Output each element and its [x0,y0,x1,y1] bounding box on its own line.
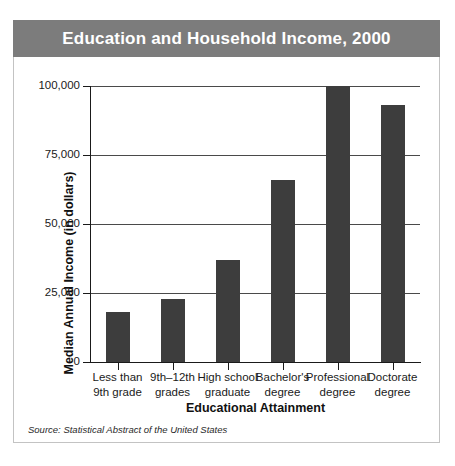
x-tick-label-line: Doctorate [359,370,426,385]
y-tick-mark [83,293,91,294]
y-axis-title: Median Annual Income (in dollars) [62,148,76,398]
bar [326,86,350,362]
source-note: Source: Statistical Abstract of the Unit… [28,424,227,435]
bar [271,180,295,362]
chart-figure: Education and Household Income, 2000 025… [0,0,455,466]
x-tick-label: Doctoratedegree [359,370,426,400]
x-tick-mark [173,363,174,370]
x-tick-mark [393,363,394,370]
bar [161,299,185,362]
y-tick-mark [83,86,91,87]
page-title: Education and Household Income, 2000 [62,29,390,49]
y-tick-mark [83,155,91,156]
x-tick-label-line: degree [359,385,426,400]
bar [106,312,130,362]
x-tick-mark [338,363,339,370]
y-tick-mark [83,224,91,225]
x-axis-title: Educational Attainment [90,401,421,415]
x-tick-mark [228,363,229,370]
y-tick-mark [83,362,91,363]
bars-layer [90,86,420,362]
bar [216,260,240,362]
x-tick-mark [118,363,119,370]
y-axis-title-wrapper: Median Annual Income (in dollars) [36,86,50,362]
x-axis-line [90,362,421,363]
x-tick-mark [283,363,284,370]
bar [381,105,405,362]
